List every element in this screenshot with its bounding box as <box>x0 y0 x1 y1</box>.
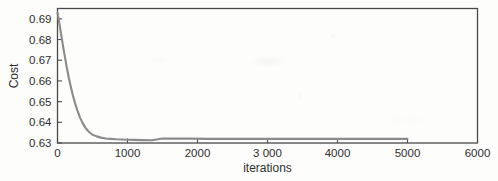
y-tick-label: 0.66 <box>29 75 51 87</box>
y-tick-label: 0.68 <box>29 34 51 46</box>
cost-vs-iterations-plot: 0100020003 000400050006000 0.630.640.650… <box>0 0 498 181</box>
x-tick-label: 2000 <box>185 147 211 159</box>
x-axis-title: iterations <box>243 161 292 175</box>
y-tick-label: 0.63 <box>29 137 51 149</box>
x-tick-label: 4000 <box>325 147 351 159</box>
x-tick-label: 3 000 <box>253 147 282 159</box>
x-tick-label: 1000 <box>115 147 141 159</box>
y-axis-title: Cost <box>7 63 21 88</box>
y-axis-tick-labels: 0.630.640.650.660.670.680.69 <box>29 13 52 149</box>
x-axis-tick-labels: 0100020003 000400050006000 <box>54 147 490 159</box>
x-tick-label: 6000 <box>465 147 491 159</box>
cost-curve <box>58 12 408 140</box>
y-tick-label: 0.65 <box>29 96 51 108</box>
chart-figure: 0100020003 000400050006000 0.630.640.650… <box>0 0 498 181</box>
plot-frame <box>58 9 478 144</box>
x-tick-label: 0 <box>54 147 60 159</box>
y-tick-label: 0.69 <box>29 13 51 25</box>
y-tick-label: 0.67 <box>29 54 51 66</box>
x-tick-label: 5000 <box>395 147 421 159</box>
y-tick-label: 0.64 <box>29 116 52 128</box>
